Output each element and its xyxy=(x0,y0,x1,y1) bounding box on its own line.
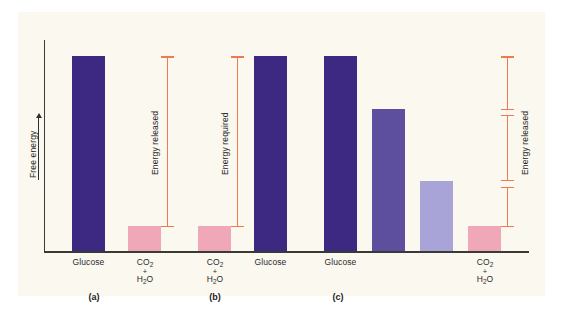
chart-plot-area: Free energy Glucose CO2 + H2O (a) Energy… xyxy=(18,12,545,296)
bracket-stem xyxy=(237,56,239,227)
bracket-divider-tick-1-upper xyxy=(501,109,514,111)
bracket-divider-tick-2-upper xyxy=(501,180,514,182)
y-axis-line xyxy=(44,40,45,252)
bar-label-co2h2o-b: CO2 + H2O xyxy=(186,258,244,285)
h2o-text: H2O xyxy=(207,274,224,284)
bar-label-glucose-a: Glucose xyxy=(58,258,119,268)
bar-label-co2h2o-a: CO2 + H2O xyxy=(116,258,174,285)
h2o-text: H2O xyxy=(137,274,154,284)
bracket-cap-bottom xyxy=(231,226,244,228)
bar-label-glucose-c: Glucose xyxy=(310,258,371,268)
bar-co2h2o-c xyxy=(468,226,501,251)
co2-text: CO2 xyxy=(137,257,154,267)
bar-glucose-a xyxy=(72,56,105,251)
bracket-cap-bottom xyxy=(161,226,174,228)
bracket-stem-segment-2 xyxy=(507,115,509,180)
co2-text: CO2 xyxy=(207,257,224,267)
bar-label-co2h2o-c: CO2 + H2O xyxy=(456,258,514,285)
label-text: Glucose xyxy=(255,257,287,267)
y-axis-label: Free energy xyxy=(28,131,38,178)
panel-letter-b: (b) xyxy=(195,292,235,302)
bar-intermediate-2-c xyxy=(420,181,453,251)
co2-text: CO2 xyxy=(477,257,494,267)
panel-letter-c: (c) xyxy=(318,292,358,302)
bracket-stem xyxy=(167,56,169,227)
bracket-cap-top xyxy=(161,56,174,58)
bracket-label-b: Energy required xyxy=(220,112,230,175)
bracket-label-c: Energy released xyxy=(520,111,530,175)
bar-co2h2o-a xyxy=(128,226,161,251)
label-text: Glucose xyxy=(73,257,105,267)
figure-panel: Free energy Glucose CO2 + H2O (a) Energy… xyxy=(18,12,545,296)
x-axis-line xyxy=(44,251,529,253)
bracket-cap-top xyxy=(231,56,244,58)
bracket-label-a: Energy released xyxy=(150,111,160,175)
h2o-text: H2O xyxy=(477,274,494,284)
y-axis-arrow-stem xyxy=(38,118,39,180)
up-arrow-icon xyxy=(36,113,42,118)
bar-intermediate-1-c xyxy=(372,109,405,251)
bar-label-glucose-b: Glucose xyxy=(240,258,301,268)
panel-letter-a: (a) xyxy=(74,292,114,302)
bracket-stem-segment-1 xyxy=(507,56,509,110)
label-text: Glucose xyxy=(325,257,357,267)
bracket-cap-bottom xyxy=(501,226,514,228)
bracket-stem-segment-3 xyxy=(507,187,509,226)
bar-co2h2o-b xyxy=(198,226,231,251)
bar-glucose-b xyxy=(254,56,287,251)
bracket-cap-top xyxy=(501,56,514,58)
bar-glucose-c xyxy=(324,56,357,251)
